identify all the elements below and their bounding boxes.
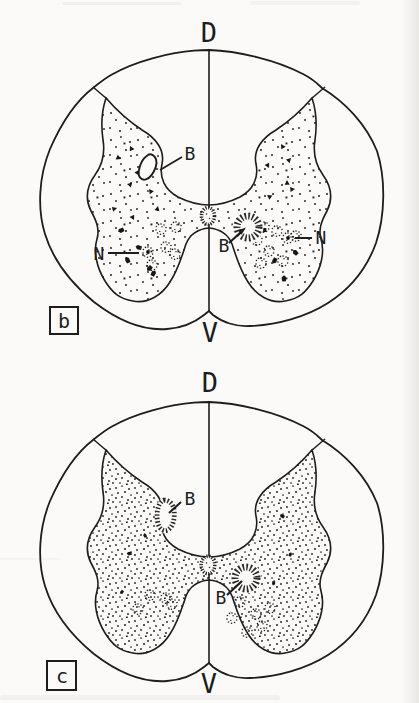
panel-letter: c — [56, 664, 68, 688]
panel-letter-box: b — [50, 307, 78, 334]
dorsolateral-line-right — [311, 87, 325, 99]
scanned-figure-page: D V B B N N b — [0, 0, 419, 703]
panel-letter-box: c — [47, 661, 76, 690]
b-dorsal-label: B — [185, 488, 196, 509]
n-left-label: N — [94, 243, 105, 264]
b-dorsal-label: B — [185, 143, 196, 164]
panel-c: D V B B c — [40, 367, 383, 699]
panel-b: D V B B N N b — [40, 17, 383, 348]
dorsolateral-line-right — [311, 439, 325, 451]
b-central-label: B — [216, 587, 227, 608]
ventral-label: V — [201, 668, 217, 699]
ventral-label: V — [202, 317, 218, 348]
b-central-label: B — [219, 235, 230, 256]
central-canal — [202, 208, 215, 225]
panel-letter: b — [58, 309, 70, 333]
dorsal-label: D — [201, 17, 217, 48]
n-right-label: N — [316, 227, 327, 248]
central-canal — [201, 556, 215, 574]
spinal-cord-figure: D V B B N N b — [0, 0, 419, 703]
dorsal-label: D — [202, 367, 218, 398]
dorsolateral-line-left — [93, 439, 107, 451]
dorsolateral-line-left — [93, 87, 107, 99]
central-b-ring — [233, 212, 264, 243]
